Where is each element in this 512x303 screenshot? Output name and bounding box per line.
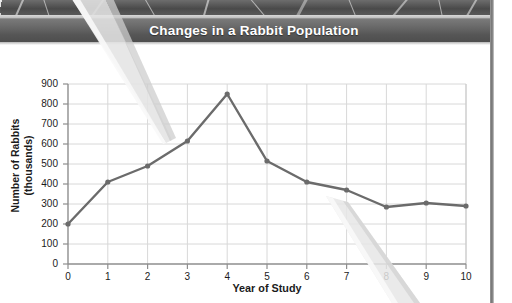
figure-title: Changes in a Rabbit Population: [133, 23, 358, 38]
data-point: [463, 203, 468, 208]
x-tick-label: 0: [56, 271, 80, 282]
x-tick-marks: [68, 264, 466, 269]
data-point: [264, 158, 269, 163]
page-right-margin: [494, 0, 512, 303]
data-point: [384, 204, 389, 209]
y-tick-label: 100: [28, 238, 58, 249]
figure-page: Changes in a Rabbit Population: [0, 0, 512, 303]
x-tick-label: 6: [295, 271, 319, 282]
y-tick-label: 900: [28, 78, 58, 89]
data-point: [105, 179, 110, 184]
x-tick-label: 3: [175, 271, 199, 282]
data-point: [344, 187, 349, 192]
figure-title-bar: Changes in a Rabbit Population: [0, 18, 492, 42]
chart-canvas: [0, 45, 492, 303]
x-tick-label: 10: [454, 271, 478, 282]
data-point: [424, 200, 429, 205]
data-point: [145, 163, 150, 168]
data-point: [185, 138, 190, 143]
y-axis-title-line1: Number of Rabbits: [9, 101, 22, 231]
y-axis-title-line2: (thousands): [21, 101, 34, 231]
data-point: [65, 221, 70, 226]
x-axis-title: Year of Study: [68, 282, 466, 294]
x-tick-label: 7: [335, 271, 359, 282]
line-chart: 900 800 700 600 500 400 300 200 100 0 0 …: [0, 45, 492, 303]
data-point: [304, 179, 309, 184]
x-tick-label: 8: [374, 271, 398, 282]
x-tick-label: 2: [136, 271, 160, 282]
x-tick-label: 1: [96, 271, 120, 282]
y-axis-title: Number of Rabbits (thousands): [9, 101, 34, 231]
x-tick-label: 9: [414, 271, 438, 282]
data-point: [225, 91, 230, 96]
x-tick-label: 4: [215, 271, 239, 282]
x-tick-label: 5: [255, 271, 279, 282]
y-tick-marks: [63, 84, 68, 264]
y-tick-label: 0: [28, 258, 58, 269]
